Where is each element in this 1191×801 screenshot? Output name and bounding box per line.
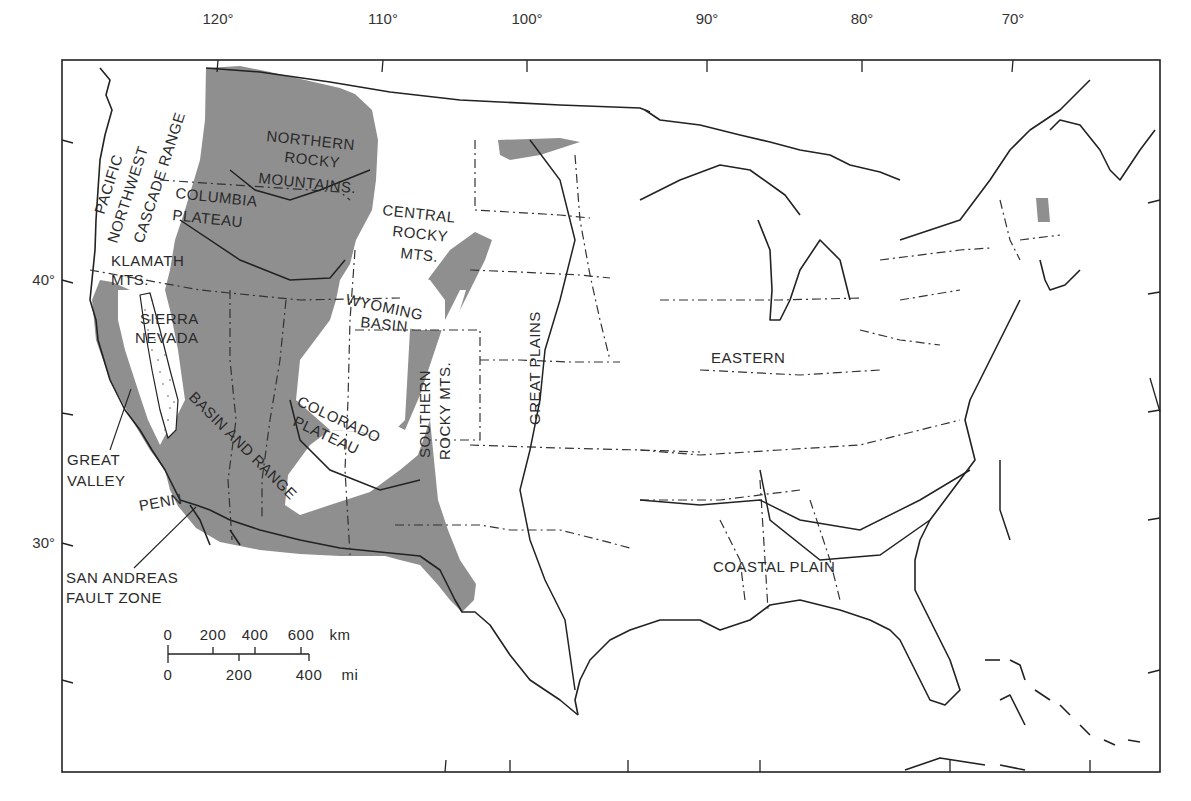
- scale-mi-400: 400: [296, 666, 323, 683]
- lat-label-40: 40°: [32, 271, 55, 288]
- scale-bar: 0 200 400 600 km 0 200 400 mi: [164, 626, 359, 683]
- latitude-labels: 40° 30°: [32, 271, 55, 551]
- label-mts-klamath: MTS.: [111, 271, 149, 288]
- lon-label-90: 90°: [696, 10, 719, 27]
- label-nevada: NEVADA: [135, 329, 199, 346]
- label-mts-central: MTS.: [400, 244, 439, 265]
- lon-label-120: 120°: [202, 10, 233, 27]
- scale-mi-unit: mi: [342, 666, 359, 683]
- label-basin-wyoming: BASIN: [360, 313, 409, 335]
- lon-label-100: 100°: [511, 10, 542, 27]
- scale-mi-200: 200: [226, 666, 253, 683]
- lon-label-80: 80°: [851, 10, 874, 27]
- label-great-plains: GREAT PLAINS: [526, 311, 543, 425]
- lon-label-110: 110°: [368, 10, 398, 27]
- label-southern: SOUTHERN: [416, 370, 433, 458]
- scale-km-200: 200: [200, 626, 227, 643]
- scale-mi-0: 0: [164, 666, 173, 683]
- label-eastern: EASTERN: [711, 349, 785, 366]
- physiographic-map: 120° 110° 100° 90° 80° 70° 40° 30° PACIF…: [0, 0, 1191, 801]
- label-valley: VALLEY: [67, 472, 126, 489]
- longitude-labels: 120° 110° 100° 90° 80° 70°: [202, 10, 1024, 27]
- label-fault-zone: FAULT ZONE: [66, 589, 162, 606]
- label-san-andreas: SAN ANDREAS: [66, 569, 178, 586]
- label-coastal-plain: COASTAL PLAIN: [713, 558, 835, 575]
- scale-km-unit: km: [330, 626, 351, 643]
- lat-label-30: 30°: [32, 534, 55, 551]
- label-penn: PENN: [138, 490, 184, 514]
- label-rocky-central: ROCKY: [392, 222, 449, 245]
- label-sierra: SIERRA: [140, 310, 199, 327]
- lon-label-70: 70°: [1002, 10, 1025, 27]
- shaded-cordillera: [92, 66, 1050, 612]
- label-rocky-mts-southern: ROCKY MTS.: [436, 362, 453, 460]
- label-great: GREAT: [67, 451, 120, 468]
- scale-km-400: 400: [242, 626, 269, 643]
- scale-km-600: 600: [288, 626, 315, 643]
- scale-km-0: 0: [164, 626, 173, 643]
- label-klamath: KLAMATH: [111, 252, 184, 269]
